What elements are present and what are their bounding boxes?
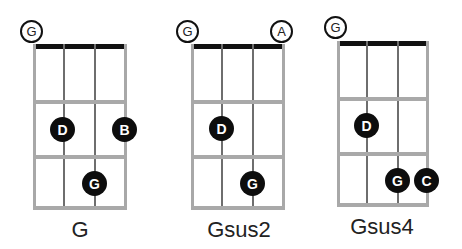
finger-note: C bbox=[421, 173, 431, 189]
fret-1 bbox=[337, 97, 429, 101]
finger-dot: G bbox=[240, 171, 265, 196]
fret-2 bbox=[191, 155, 285, 159]
fret-3 bbox=[337, 203, 429, 207]
open-string-marker: A bbox=[270, 20, 293, 43]
chord-diagram-gsus4: G D G C Gsus4 bbox=[0, 0, 130, 249]
open-note-label: G bbox=[182, 24, 192, 39]
fret-1 bbox=[191, 100, 285, 104]
nut bbox=[191, 44, 285, 49]
string-1 bbox=[191, 44, 194, 210]
open-string-marker: G bbox=[324, 16, 347, 39]
finger-dot: D bbox=[209, 116, 234, 141]
string-4 bbox=[282, 44, 285, 210]
open-note-label: G bbox=[330, 20, 340, 35]
string-1 bbox=[337, 41, 340, 207]
finger-dot: G bbox=[385, 168, 410, 193]
finger-note: D bbox=[361, 118, 371, 134]
open-string-marker: G bbox=[176, 20, 199, 43]
open-note-label: A bbox=[277, 24, 286, 39]
fret-2 bbox=[337, 152, 429, 156]
finger-dot: D bbox=[354, 113, 379, 138]
nut bbox=[337, 41, 429, 46]
fret-3 bbox=[191, 206, 285, 210]
chord-name: Gsus2 bbox=[174, 217, 304, 243]
finger-note: G bbox=[392, 173, 403, 189]
finger-dot: C bbox=[414, 168, 439, 193]
finger-note: D bbox=[216, 121, 226, 137]
chord-name: Gsus4 bbox=[317, 214, 447, 240]
finger-note: G bbox=[247, 176, 258, 192]
